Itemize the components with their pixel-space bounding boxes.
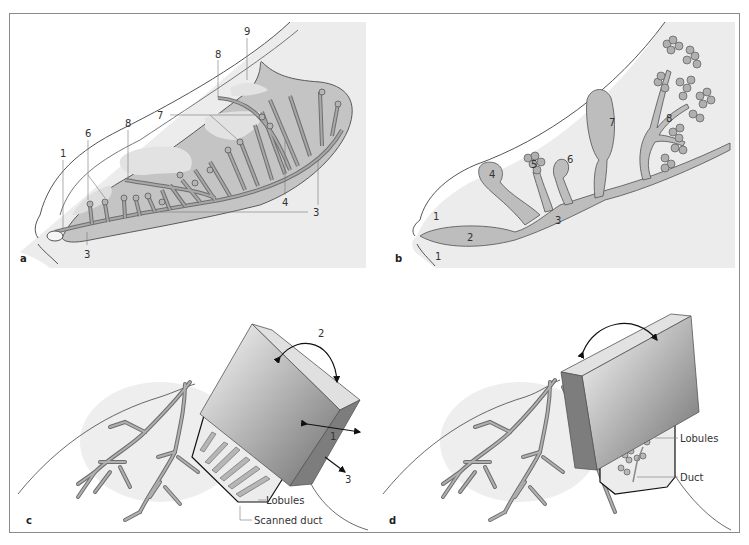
label-b-3: 3 bbox=[555, 215, 561, 226]
panel-b: 1 1 2 3 4 5 6 7 8 b bbox=[375, 0, 749, 272]
label-b-4: 4 bbox=[489, 169, 495, 180]
label-a-9: 9 bbox=[244, 26, 250, 37]
tilt-arrow-3 bbox=[325, 457, 345, 472]
panel-c: 2 1 3 Lobules Scanned duct c bbox=[0, 272, 375, 545]
panel-letter-d: d bbox=[389, 515, 396, 526]
callout-duct: Duct bbox=[680, 472, 704, 483]
callout-scanned-duct: Scanned duct bbox=[254, 515, 323, 526]
label-b-1-lower: 1 bbox=[435, 251, 441, 262]
callout-lobules-d: Lobules bbox=[680, 433, 718, 444]
panel-letter-c: c bbox=[26, 515, 32, 526]
label-a-8-top: 8 bbox=[215, 49, 221, 60]
panel-letter-b: b bbox=[395, 253, 402, 264]
panel-letter-a: a bbox=[20, 253, 27, 264]
anatomical-figure: 1 6 3 8 7 8 9 4 3 3 a bbox=[0, 0, 749, 545]
label-a-1: 1 bbox=[60, 148, 66, 159]
label-b-7: 7 bbox=[609, 117, 615, 128]
label-b-1-upper: 1 bbox=[433, 211, 439, 222]
label-a-4: 4 bbox=[282, 197, 288, 208]
label-b-6: 6 bbox=[567, 154, 573, 165]
label-b-8: 8 bbox=[666, 113, 672, 124]
label-c-2: 2 bbox=[318, 328, 324, 339]
label-a-3-mid: 3 bbox=[313, 207, 319, 218]
callout-lobules-c: Lobules bbox=[266, 495, 304, 506]
label-b-5: 5 bbox=[531, 159, 537, 170]
panel-a-illustration: 1 6 3 8 7 8 9 4 3 3 a bbox=[0, 0, 375, 272]
panel-d-illustration: Lobules Duct d bbox=[375, 272, 749, 545]
label-c-1: 1 bbox=[330, 431, 336, 442]
label-a-3-bottom: 3 bbox=[84, 249, 90, 260]
panel-a: 1 6 3 8 7 8 9 4 3 3 a bbox=[0, 0, 375, 272]
label-a-8-left: 8 bbox=[125, 118, 131, 129]
label-a-6: 6 bbox=[85, 128, 91, 139]
panel-d: Lobules Duct d bbox=[375, 272, 749, 545]
panel-b-illustration: 1 1 2 3 4 5 6 7 8 b bbox=[375, 0, 749, 272]
label-b-2: 2 bbox=[467, 232, 473, 243]
panel-c-illustration: 2 1 3 Lobules Scanned duct c bbox=[0, 272, 375, 545]
label-a-7: 7 bbox=[157, 110, 163, 121]
label-c-3: 3 bbox=[345, 474, 351, 485]
